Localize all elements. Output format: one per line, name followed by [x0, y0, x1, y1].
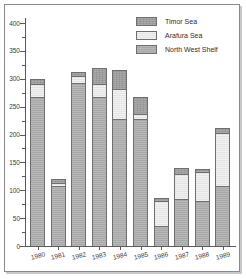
bar-segment-north-west-shelf — [133, 119, 148, 246]
bar-segment-timor-sea — [112, 70, 127, 90]
bar-segment-timor-sea — [133, 97, 148, 114]
x-tick-mark — [182, 246, 183, 250]
y-tick-label: 400 — [2, 20, 20, 27]
y-tick-minor — [22, 65, 25, 66]
y-tick-mark — [20, 107, 25, 108]
y-tick-label: 0 — [2, 243, 20, 250]
legend-item-arafura-sea: Arafura Sea — [136, 28, 218, 42]
y-tick-label-wrap: 50 — [0, 215, 20, 222]
bar-segment-arafura-sea — [174, 174, 189, 200]
x-tick-mark — [99, 246, 100, 250]
legend-swatch-arafura-sea — [136, 31, 157, 40]
y-tick-label: 150 — [2, 159, 20, 166]
bar-1982 — [71, 72, 86, 246]
y-tick-label: 200 — [2, 131, 20, 138]
x-axis-line — [25, 246, 236, 247]
y-axis-line — [25, 18, 26, 247]
y-tick-mark — [20, 246, 25, 247]
y-tick-mark — [20, 162, 25, 163]
bar-segment-arafura-sea — [71, 76, 86, 83]
y-tick-mark — [20, 79, 25, 80]
y-tick-minor — [22, 232, 25, 233]
legend-label-timor-sea: Timor Sea — [165, 17, 197, 26]
bar-segment-north-west-shelf — [154, 226, 169, 246]
y-tick-label-wrap: 200 — [0, 131, 20, 138]
y-tick-minor — [22, 37, 25, 38]
y-tick-label: 300 — [2, 75, 20, 82]
chart-legend: Timor Sea Arafura Sea North West Shelf — [136, 14, 218, 56]
bar-segment-north-west-shelf — [92, 97, 107, 246]
y-tick-mark — [20, 218, 25, 219]
x-tick-mark — [79, 246, 80, 250]
bar-1984 — [112, 70, 127, 246]
y-tick-label: 100 — [2, 187, 20, 194]
bar-1989 — [215, 128, 230, 246]
y-tick-minor — [22, 204, 25, 205]
bar-1987 — [174, 168, 189, 246]
x-tick-mark — [223, 246, 224, 250]
y-tick-mark — [20, 51, 25, 52]
y-tick-mark — [20, 23, 25, 24]
y-tick-mark — [20, 190, 25, 191]
bar-1980 — [30, 79, 45, 246]
y-tick-minor — [22, 148, 25, 149]
y-tick-label-wrap: 0 — [0, 243, 20, 250]
legend-swatch-north-west-shelf — [136, 45, 157, 54]
y-tick-label-wrap: 250 — [0, 103, 20, 110]
legend-label-north-west-shelf: North West Shelf — [165, 45, 218, 54]
bar-segment-north-west-shelf — [174, 199, 189, 246]
y-tick-label: 250 — [2, 103, 20, 110]
bar-segment-north-west-shelf — [30, 97, 45, 246]
x-tick-mark — [161, 246, 162, 250]
bar-segment-north-west-shelf — [112, 119, 127, 246]
y-tick-label-wrap: 300 — [0, 75, 20, 82]
y-tick-label-wrap: 150 — [0, 159, 20, 166]
bar-segment-north-west-shelf — [215, 186, 230, 246]
bar-segment-timor-sea — [92, 68, 107, 84]
bar-1988 — [195, 169, 210, 246]
bar-segment-arafura-sea — [215, 133, 230, 186]
y-tick-minor — [22, 176, 25, 177]
y-tick-label-wrap: 100 — [0, 187, 20, 194]
x-tick-mark — [120, 246, 121, 250]
bar-segment-arafura-sea — [112, 89, 127, 119]
bar-segment-north-west-shelf — [51, 186, 66, 246]
bar-1986 — [154, 198, 169, 246]
x-tick-mark — [58, 246, 59, 250]
legend-label-arafura-sea: Arafura Sea — [165, 31, 202, 40]
y-tick-label: 350 — [2, 47, 20, 54]
legend-item-north-west-shelf: North West Shelf — [136, 42, 218, 56]
y-tick-minor — [22, 121, 25, 122]
bar-segment-arafura-sea — [195, 172, 210, 202]
x-tick-mark — [141, 246, 142, 250]
bar-segment-north-west-shelf — [195, 201, 210, 246]
chart-container: 050100150200250300350400 198019811982198… — [0, 0, 246, 279]
x-tick-mark — [38, 246, 39, 250]
y-tick-label-wrap: 350 — [0, 47, 20, 54]
bar-segment-arafura-sea — [154, 201, 169, 226]
y-tick-minor — [22, 93, 25, 94]
y-tick-label: 50 — [2, 215, 20, 222]
bar-1983 — [92, 68, 107, 246]
bar-segment-north-west-shelf — [71, 83, 86, 246]
bar-1985 — [133, 97, 148, 246]
bar-segment-arafura-sea — [30, 84, 45, 97]
bar-1981 — [51, 179, 66, 246]
bar-segment-arafura-sea — [92, 84, 107, 97]
y-tick-label-wrap: 400 — [0, 20, 20, 27]
x-tick-mark — [202, 246, 203, 250]
legend-swatch-timor-sea — [136, 17, 157, 26]
legend-item-timor-sea: Timor Sea — [136, 14, 218, 28]
y-tick-mark — [20, 135, 25, 136]
